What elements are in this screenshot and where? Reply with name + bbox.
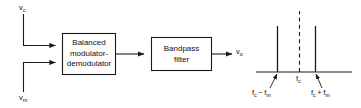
upper-sideband-label: fc+fm xyxy=(311,89,330,98)
balanced-modulator-demodulator-label: Balanced modulator- demodulator xyxy=(62,38,116,70)
output-label: vo xyxy=(236,48,243,57)
figure-canvas: vc vm Balanced modulator- demodulator Ba… xyxy=(0,0,361,108)
upper-sideband-leader-arrow xyxy=(316,74,322,88)
carrier-frequency-label: fc xyxy=(296,75,301,84)
lower-sideband-leader-arrow xyxy=(270,74,277,88)
block1-line3: demodulator xyxy=(62,59,116,70)
carrier-input-wire xyxy=(24,14,56,46)
carrier-input-label: vc xyxy=(19,4,26,13)
lower-sideband-label: fc−fm xyxy=(252,89,271,98)
modulating-input-label: vm xyxy=(19,94,27,103)
modulating-input-wire xyxy=(24,63,56,93)
block1-line1: Balanced xyxy=(62,38,116,49)
block2-line1: Bandpass xyxy=(151,44,212,55)
block1-line2: modulator- xyxy=(62,49,116,60)
block2-line2: filter xyxy=(151,55,212,66)
bandpass-filter-label: Bandpass filter xyxy=(151,44,212,65)
